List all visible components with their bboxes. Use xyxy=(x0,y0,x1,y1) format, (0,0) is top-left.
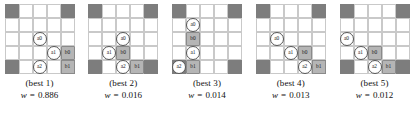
grid-cell-empty xyxy=(19,4,33,18)
weight-symbol: w xyxy=(272,90,278,100)
box-marker: b0 xyxy=(61,46,75,60)
grid-world: a0b0a1a2b1 xyxy=(172,4,242,74)
grid-cell-empty xyxy=(312,32,326,46)
grid-cell-empty xyxy=(284,4,298,18)
weight-symbol: w xyxy=(105,90,111,100)
grid-cell-empty xyxy=(186,4,200,18)
box-marker: b0 xyxy=(186,32,200,46)
box-marker: b0 xyxy=(298,46,312,60)
grid-cell-empty xyxy=(340,18,354,32)
grid-cell-blocked xyxy=(340,60,354,74)
grid-cell-empty xyxy=(19,60,33,74)
grid-cell-empty xyxy=(354,4,368,18)
box-marker: b1 xyxy=(382,60,396,74)
grid-cell-empty xyxy=(382,32,396,46)
grid-cell-empty xyxy=(368,18,382,32)
grid-cell-empty xyxy=(200,46,214,60)
grid-cell-empty xyxy=(61,18,75,32)
grid-cell-blocked xyxy=(88,60,102,74)
grid-cell-empty xyxy=(172,46,186,60)
grid-cell-empty xyxy=(33,46,47,60)
grid-cell-empty xyxy=(47,18,61,32)
grid-cell-empty xyxy=(47,60,61,74)
grid-cell-blocked xyxy=(144,60,158,74)
grid-cell-empty xyxy=(312,46,326,60)
grid-cell-empty xyxy=(88,32,102,46)
grid-cell-empty xyxy=(19,32,33,46)
agent-marker: a1 xyxy=(186,46,200,60)
panel-caption: (best 4) xyxy=(277,78,305,88)
weight-value: 0.013 xyxy=(289,90,309,100)
grid-cell-blocked xyxy=(144,4,158,18)
agent-marker: a1 xyxy=(354,46,368,60)
grid-cell-blocked xyxy=(228,4,242,18)
grid-cell-empty xyxy=(130,4,144,18)
plan-panel: a0a1b0a2b1(best 2)w=0.016 xyxy=(84,0,163,100)
grid-cell-empty xyxy=(214,60,228,74)
grid-cell-blocked xyxy=(5,60,19,74)
grid-cell-empty xyxy=(298,18,312,32)
grid-cell-empty xyxy=(270,18,284,32)
grid-cell-empty xyxy=(340,46,354,60)
grid-cell-empty xyxy=(284,18,298,32)
box-marker: b1 xyxy=(186,60,200,74)
weight-equals: = xyxy=(30,90,35,100)
grid-cell-empty xyxy=(33,4,47,18)
grid-cell-empty xyxy=(130,18,144,32)
grid-cell-empty xyxy=(214,4,228,18)
panel-weight: w=0.014 xyxy=(188,90,225,100)
weight-equals: = xyxy=(281,90,286,100)
agent-marker: a2 xyxy=(33,60,47,74)
plan-panel: a0b0a1a2b1(best 3)w=0.014 xyxy=(168,0,247,100)
grid-cell-empty xyxy=(396,32,410,46)
grid-cell-empty xyxy=(354,60,368,74)
weight-symbol: w xyxy=(21,90,27,100)
plan-panel: a0a1b0a2b1(best 1)w=0.886 xyxy=(0,0,79,100)
grid-cell-empty xyxy=(256,18,270,32)
grid-cell-blocked xyxy=(256,4,270,18)
grid-cell-empty xyxy=(200,4,214,18)
grid-cell-empty xyxy=(47,4,61,18)
box-marker: b1 xyxy=(61,60,75,74)
grid-cell-blocked xyxy=(61,4,75,18)
panel-caption: (best 3) xyxy=(193,78,221,88)
agent-marker: a0 xyxy=(270,32,284,46)
grid-cell-empty xyxy=(228,46,242,60)
panel-caption: (best 1) xyxy=(25,78,53,88)
grid-world: a0a1b0a2b1 xyxy=(5,4,75,74)
grid-cell-empty xyxy=(382,46,396,60)
grid-cell-empty xyxy=(298,4,312,18)
grid-cell-empty xyxy=(256,46,270,60)
panel-weight: w=0.016 xyxy=(105,90,142,100)
grid-cell-blocked xyxy=(88,4,102,18)
grid-cell-empty xyxy=(144,32,158,46)
grid-cell-empty xyxy=(200,60,214,74)
grid-cell-empty xyxy=(102,4,116,18)
grid-cell-empty xyxy=(130,32,144,46)
grid-cell-empty xyxy=(61,32,75,46)
grid-cell-blocked xyxy=(312,4,326,18)
grid-cell-empty xyxy=(396,46,410,60)
grid-cell-empty xyxy=(368,4,382,18)
grid-cell-empty xyxy=(33,18,47,32)
weight-value: 0.016 xyxy=(122,90,142,100)
grid-cell-blocked xyxy=(396,60,410,74)
weight-equals: = xyxy=(114,90,119,100)
grid-cell-empty xyxy=(200,32,214,46)
box-marker: b0 xyxy=(116,46,130,60)
grid-cell-empty xyxy=(354,18,368,32)
agent-marker: a0 xyxy=(186,18,200,32)
best-plans-figure: a0a1b0a2b1(best 1)w=0.886a0a1b0a2b1(best… xyxy=(0,0,414,119)
grid-cell-empty xyxy=(102,18,116,32)
grid-cell-empty xyxy=(5,18,19,32)
weight-value: 0.014 xyxy=(205,90,225,100)
weight-equals: = xyxy=(197,90,202,100)
grid-cell-empty xyxy=(5,32,19,46)
grid-cell-empty xyxy=(130,46,144,60)
grid-cell-empty xyxy=(116,4,130,18)
grid-cell-blocked xyxy=(172,4,186,18)
grid-cell-empty xyxy=(88,18,102,32)
grid-cell-empty xyxy=(270,60,284,74)
agent-marker: a1 xyxy=(47,46,61,60)
grid-cell-blocked xyxy=(5,4,19,18)
